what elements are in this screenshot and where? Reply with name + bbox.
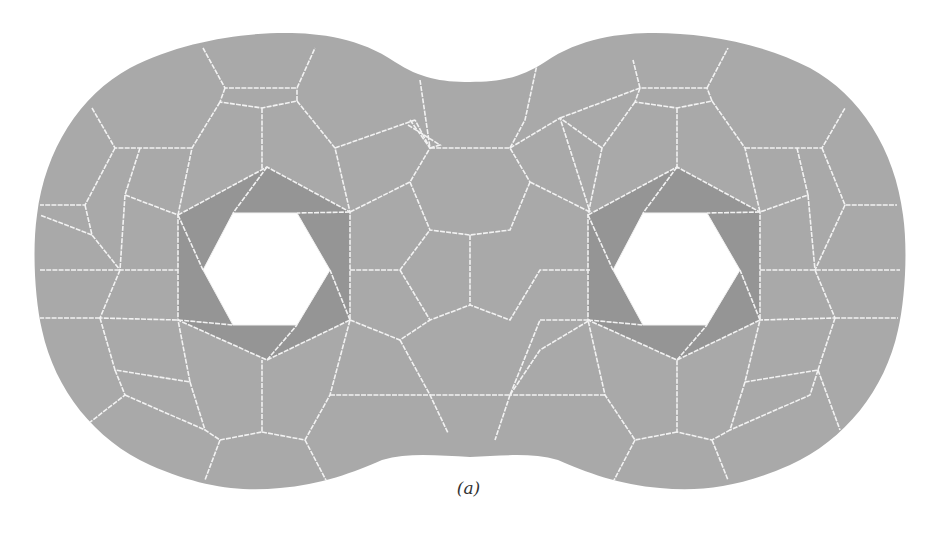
double-torus-diagram: [0, 0, 937, 538]
ring-spoke: [297, 212, 350, 213]
ring-spoke: [707, 212, 760, 213]
figure-caption: (a): [0, 478, 937, 498]
